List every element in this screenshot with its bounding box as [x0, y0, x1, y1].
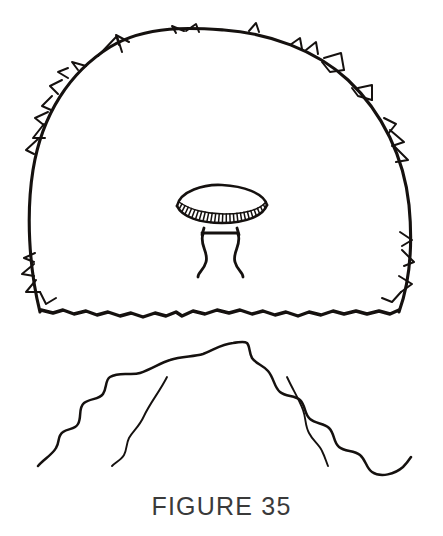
saucer-rib-17 — [237, 213, 238, 222]
illustration-background — [0, 0, 443, 490]
saucer-rib-12 — [218, 214, 219, 223]
figure-caption: FIGURE 35 — [0, 492, 443, 521]
saucer-rib-16 — [233, 214, 234, 223]
ufo-dome-illustration — [0, 0, 443, 490]
figure-page: FIGURE 35 — [0, 0, 443, 536]
illustration-area — [0, 0, 443, 490]
